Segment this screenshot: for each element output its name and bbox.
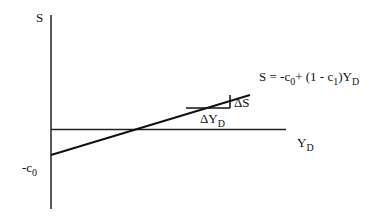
equation-sub1: 0: [290, 76, 295, 87]
delta-yd-label: ΔYD: [200, 112, 225, 125]
equation-sub2: 1: [333, 76, 338, 87]
delta-s-label: ΔS: [234, 96, 250, 109]
delta-yd-sub: D: [218, 118, 225, 129]
y-axis-label-text: S: [36, 10, 43, 25]
x-axis-label-sub: D: [306, 142, 313, 153]
intercept-label-main: -c: [22, 160, 32, 175]
delta-s-text: ΔS: [234, 95, 250, 110]
equation-part2: + (1 - c: [295, 69, 333, 84]
intercept-label: -c0: [22, 161, 37, 174]
x-axis-label: YD: [297, 136, 314, 149]
delta-yd-main: ΔY: [200, 111, 218, 126]
equation-sub3: D: [352, 76, 359, 87]
equation-part1: S = -c: [259, 69, 290, 84]
intercept-label-sub: 0: [32, 167, 37, 178]
diagram-canvas: [0, 0, 377, 220]
y-axis-label: S: [36, 11, 43, 24]
equation-label: S = -c0+ (1 - c1)YD: [259, 70, 359, 83]
equation-part3: )Y: [338, 69, 352, 84]
x-axis-label-main: Y: [297, 135, 306, 150]
